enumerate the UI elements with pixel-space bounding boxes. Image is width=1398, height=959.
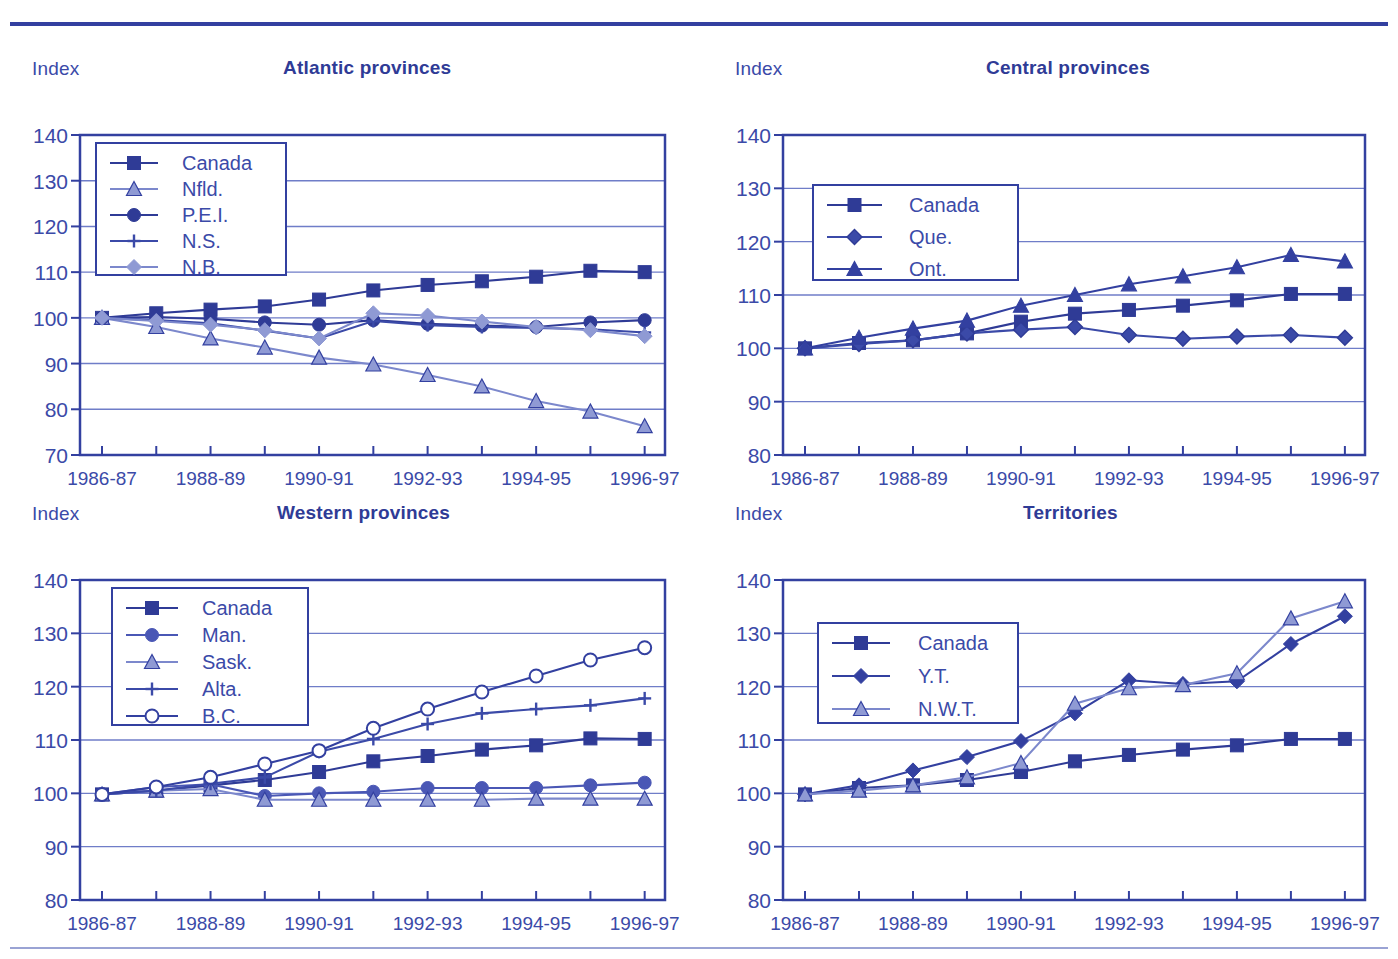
data-point-marker: [1338, 732, 1351, 745]
legend-label: P.E.I.: [182, 204, 228, 226]
data-point-marker: [530, 670, 543, 683]
y-tick-label: 130: [33, 170, 68, 193]
data-point-marker: [638, 692, 651, 705]
y-tick-label: 110: [738, 729, 771, 752]
y-tick-label: 100: [736, 337, 771, 360]
legend-label: N.B.: [182, 256, 221, 278]
data-point-marker: [637, 329, 652, 344]
y-tick-label: 120: [736, 676, 771, 699]
data-point-marker: [258, 758, 271, 771]
data-point-marker: [1067, 320, 1082, 335]
y-tick-label: 90: [45, 836, 68, 859]
x-tick-label: 1994-95: [501, 913, 571, 934]
data-point-marker: [313, 318, 326, 331]
y-tick-label: 80: [748, 444, 771, 467]
y-tick-label: 140: [736, 569, 771, 592]
data-point-marker: [959, 750, 974, 765]
y-tick-label: 80: [748, 889, 771, 912]
data-point-marker: [1283, 637, 1298, 652]
data-point-marker: [421, 278, 434, 291]
chart-root-western: 80901001101201301401986-871988-891990-91…: [33, 569, 680, 934]
data-point-marker: [530, 703, 543, 716]
legend-marker-square-icon: [146, 602, 159, 615]
y-tick-label: 90: [748, 391, 771, 414]
data-point-marker: [367, 755, 380, 768]
data-point-marker: [584, 732, 597, 745]
data-point-marker: [313, 766, 326, 779]
x-tick-label: 1996-97: [1310, 913, 1380, 934]
y-tick-label: 120: [736, 231, 771, 254]
data-point-marker: [1284, 287, 1297, 300]
y-tick-labels: 8090100110120130140: [736, 569, 783, 912]
plot-area-territories: 80901001101201301401986-871988-891990-91…: [703, 485, 1398, 930]
data-point-marker: [1230, 294, 1243, 307]
data-point-marker: [1337, 330, 1352, 345]
plot-area-atlantic: 7080901001101201301401986-871988-891990-…: [0, 40, 699, 485]
data-point-marker: [529, 320, 544, 335]
data-point-marker: [638, 314, 651, 327]
legend-territories: CanadaY.T.N.W.T.: [818, 623, 1018, 723]
y-tick-label: 140: [33, 569, 68, 592]
legend-label: Y.T.: [918, 665, 950, 687]
legend-label: Canada: [182, 152, 253, 174]
plot-area-western: 80901001101201301401986-871988-891990-91…: [0, 485, 699, 930]
y-tick-label: 100: [736, 782, 771, 805]
legend-marker-circle-icon: [128, 209, 141, 222]
data-point-marker: [421, 718, 434, 731]
x-axis-ticks: 1986-871988-891990-911992-931994-951996-…: [67, 446, 679, 489]
data-point-marker: [638, 776, 651, 789]
y-tick-labels: 8090100110120130140: [736, 124, 783, 467]
y-tick-label: 130: [736, 622, 771, 645]
y-tick-labels: 708090100110120130140: [33, 124, 80, 467]
data-point-marker: [1122, 303, 1135, 316]
legend-label: Man.: [202, 624, 246, 646]
y-tick-labels: 8090100110120130140: [33, 569, 80, 912]
data-point-marker: [367, 284, 380, 297]
data-point-marker: [1337, 609, 1352, 624]
legend-marker-circle-icon: [146, 629, 159, 642]
y-tick-label: 120: [33, 215, 68, 238]
chart-root-atlantic: 7080901001101201301401986-871988-891990-…: [33, 124, 680, 489]
data-point-marker: [584, 779, 597, 792]
y-tick-label: 130: [736, 177, 771, 200]
y-tick-label: 100: [33, 307, 68, 330]
data-point-marker: [1176, 299, 1189, 312]
legend-label: Alta.: [202, 678, 242, 700]
legend-marker-square-icon: [128, 157, 141, 170]
y-tick-label: 110: [35, 261, 68, 284]
data-point-marker: [475, 707, 488, 720]
data-point-marker: [1338, 287, 1351, 300]
data-point-marker: [1013, 734, 1028, 749]
x-tick-label: 1990-91: [986, 913, 1056, 934]
y-tick-label: 70: [45, 444, 68, 467]
data-point-marker: [475, 686, 488, 699]
data-point-marker: [1176, 743, 1189, 756]
x-tick-label: 1988-89: [176, 913, 246, 934]
figure-page: Index Atlantic provinces 708090100110120…: [0, 0, 1398, 959]
data-point-marker: [905, 763, 920, 778]
x-axis-ticks: 1986-871988-891990-911992-931994-951996-…: [770, 446, 1380, 489]
legend-label: Canada: [918, 632, 989, 654]
chart-panel-territories: Index Territories 8090100110120130140198…: [703, 485, 1398, 930]
y-tick-label: 110: [35, 729, 68, 752]
data-point-marker: [313, 744, 326, 757]
data-point-marker: [638, 266, 651, 279]
x-tick-label: 1992-93: [1094, 913, 1164, 934]
y-tick-label: 130: [33, 622, 68, 645]
data-point-marker: [258, 300, 271, 313]
data-point-marker: [1068, 755, 1081, 768]
data-point-marker: [1337, 594, 1352, 608]
legend-label: N.W.T.: [918, 698, 977, 720]
chart-panel-western: Index Western provinces 8090100110120130…: [0, 485, 699, 930]
chart-panel-central: Index Central provinces 8090100110120130…: [703, 40, 1398, 485]
legend-label: Que.: [909, 226, 952, 248]
data-point-marker: [313, 293, 326, 306]
data-point-marker: [638, 641, 651, 654]
y-tick-label: 120: [33, 676, 68, 699]
data-point-marker: [421, 703, 434, 716]
legend-marker-square-icon: [848, 199, 861, 212]
data-point-marker: [584, 264, 597, 277]
x-axis-ticks: 1986-871988-891990-911992-931994-951996-…: [770, 891, 1380, 934]
data-point-marker: [312, 331, 327, 346]
data-point-marker: [1121, 328, 1136, 343]
